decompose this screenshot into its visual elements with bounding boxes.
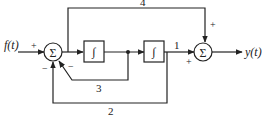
- sum1-feedback3-sign: −: [68, 61, 74, 72]
- sigma-icon: Σ: [200, 46, 207, 60]
- branch-label-4: 4: [140, 0, 146, 8]
- junction-dot: [126, 50, 130, 54]
- output-label: y(t): [244, 45, 262, 59]
- integral-icon: ∫: [151, 45, 156, 59]
- diagram-canvas: Σ ∫ ∫ Σ f(t) y(t) + − − + + 4 1 3 2: [0, 0, 264, 118]
- sum1-feedback2-sign: −: [42, 63, 48, 74]
- branch-label-2: 2: [108, 105, 114, 117]
- sigma-icon: Σ: [50, 46, 57, 60]
- summing-junction-2: Σ: [194, 43, 212, 61]
- branch-label-1: 1: [174, 39, 180, 51]
- integrator-block-1: ∫: [84, 41, 104, 62]
- summing-junction-1: Σ: [44, 43, 62, 61]
- integrator-block-2: ∫: [144, 41, 164, 62]
- input-label: f(t): [4, 38, 19, 52]
- block-diagram: Σ ∫ ∫ Σ f(t) y(t) + − − + + 4 1 3 2: [0, 0, 264, 118]
- integral-icon: ∫: [91, 45, 96, 59]
- sum1-input-sign: +: [31, 40, 37, 51]
- branch-label-3: 3: [96, 82, 102, 94]
- sum2-top-sign: +: [210, 19, 216, 30]
- sum2-left-sign: +: [186, 56, 192, 67]
